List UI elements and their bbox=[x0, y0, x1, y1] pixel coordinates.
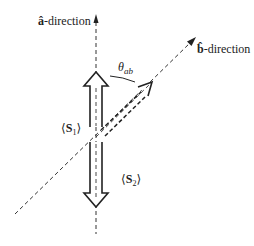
theta-subscript: ab bbox=[124, 66, 133, 76]
diagram-canvas bbox=[0, 0, 254, 246]
b-direction-label: b̂-direction bbox=[197, 43, 250, 55]
theta-ab-label: θab bbox=[118, 61, 133, 76]
a-direction-text: -direction bbox=[44, 14, 91, 28]
s1-label: ⟨S1⟩ bbox=[61, 122, 81, 137]
b-direction-text: -direction bbox=[204, 42, 251, 56]
b-hat-symbol: b̂ bbox=[197, 42, 204, 56]
s2-label: ⟨S2⟩ bbox=[121, 173, 141, 188]
a-direction-label: â-direction bbox=[38, 15, 91, 27]
theta-arc bbox=[110, 76, 135, 82]
b-direction-arrowhead-icon bbox=[187, 37, 196, 46]
a-direction-arrowhead-icon bbox=[94, 14, 99, 23]
s2-close-bracket: ⟩ bbox=[136, 172, 141, 186]
b-arrow-icon bbox=[96, 82, 152, 137]
s1-close-bracket: ⟩ bbox=[76, 121, 81, 135]
